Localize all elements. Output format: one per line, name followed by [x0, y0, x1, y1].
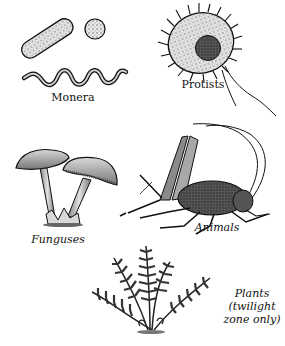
fern-icon	[92, 246, 210, 334]
kingdoms-diagram: Monera Protists Funguses Animals Plants …	[0, 0, 285, 346]
label-animals: Animals	[182, 222, 252, 234]
label-funguses: Funguses	[18, 234, 98, 246]
coccus-bacterium-icon	[85, 19, 105, 39]
label-plants-line-2: (twilight	[212, 301, 285, 313]
cricket-icon	[120, 124, 270, 234]
label-monera: Monera	[38, 92, 108, 104]
mushroom-icon	[16, 150, 117, 227]
label-plants-line-1: Plants	[212, 288, 285, 300]
rod-bacterium-icon	[18, 15, 76, 61]
label-protists: Protists	[168, 79, 238, 91]
protist-cell-icon	[158, 3, 276, 116]
label-plants-line-3: zone only)	[212, 314, 285, 326]
spirillum-bacterium-icon	[24, 70, 126, 85]
